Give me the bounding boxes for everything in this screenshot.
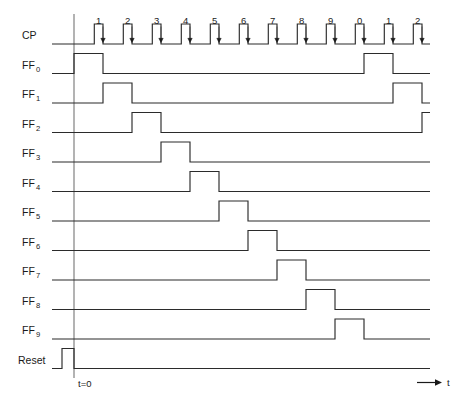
waveform-ff4 (52, 172, 430, 192)
clock-edge-arrow-group (101, 27, 424, 43)
clock-falling-edge-arrowhead (101, 38, 105, 42)
waveform-reset (52, 349, 430, 369)
waveform-ff9 (52, 319, 430, 339)
waveform-ff6 (52, 231, 430, 251)
clock-falling-edge-arrowhead (246, 38, 250, 42)
timing-diagram: CPFF0FF1FF2FF3FF4FF5FF6FF7FF8FF9Reset 12… (0, 0, 476, 409)
row-label-reset: Reset (18, 354, 46, 366)
clock-falling-edge-arrowhead (130, 38, 134, 42)
clock-falling-edge-arrowhead (420, 38, 424, 42)
time-axis-label: t (447, 377, 450, 388)
row-label-ff0: FF0 (22, 59, 40, 74)
clock-falling-edge-arrowhead (362, 38, 366, 42)
clock-falling-edge-arrowhead (275, 38, 279, 42)
row-label-ff1: FF1 (22, 88, 40, 103)
waveform-ff7 (52, 260, 430, 280)
row-label-ff2: FF2 (22, 118, 40, 133)
clock-falling-edge-arrowhead (159, 38, 163, 42)
waveform-ff0 (52, 54, 430, 74)
waveform-cp (52, 24, 430, 44)
time-axis-arrowhead (435, 379, 442, 386)
row-label-ff5: FF5 (22, 206, 40, 221)
waveform-ff5 (52, 201, 430, 221)
row-label-cp: CP (22, 29, 37, 41)
clock-falling-edge-arrowhead (217, 38, 221, 42)
row-label-ff4: FF4 (22, 177, 40, 192)
row-label-ff3: FF3 (22, 147, 40, 162)
row-label-ff7: FF7 (22, 265, 40, 280)
clock-falling-edge-arrowhead (304, 38, 308, 42)
row-label-ff6: FF6 (22, 236, 40, 251)
timing-diagram-canvas: CPFF0FF1FF2FF3FF4FF5FF6FF7FF8FF9Reset 12… (0, 0, 476, 409)
waveform-ff2 (52, 113, 430, 133)
row-label-ff8: FF8 (22, 295, 40, 310)
clock-tick-label-group: 123456789012 (96, 15, 420, 26)
annotation-group: t=0t (78, 377, 450, 389)
row-label-group: CPFF0FF1FF2FF3FF4FF5FF6FF7FF8FF9Reset (18, 29, 46, 366)
waveform-ff1 (52, 83, 430, 103)
waveform-ff8 (52, 290, 430, 310)
waveform-ff3 (52, 142, 430, 162)
t-zero-label: t=0 (78, 378, 91, 389)
clock-falling-edge-arrowhead (188, 38, 192, 42)
clock-falling-edge-arrowhead (391, 38, 395, 42)
clock-falling-edge-arrowhead (333, 38, 337, 42)
row-label-ff9: FF9 (22, 324, 40, 339)
waveform-group (52, 24, 430, 369)
